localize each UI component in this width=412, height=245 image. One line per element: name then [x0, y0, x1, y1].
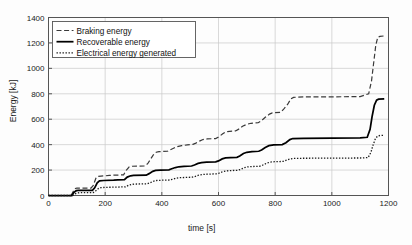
y-tick-label: 1200: [27, 39, 45, 48]
y-tick-label: 200: [31, 166, 45, 175]
x-axis-label: time [s]: [188, 223, 215, 233]
chart-figure: 0200400600800100012000200400600800100012…: [0, 0, 412, 245]
legend-label-3: Electrical energy generated: [77, 49, 177, 58]
y-tick-label: 400: [31, 141, 45, 150]
x-tick-label: 200: [98, 199, 112, 208]
y-tick-label: 600: [31, 115, 45, 124]
x-tick-label: 1000: [323, 199, 341, 208]
x-tick-label: 400: [155, 199, 169, 208]
x-tick-label: 1200: [380, 199, 398, 208]
legend-label-2: Recoverable energy: [77, 38, 151, 47]
legend-label-1: Braking energy: [77, 27, 133, 36]
y-tick-label: 0: [40, 192, 45, 201]
x-tick-label: 600: [212, 199, 226, 208]
series-line-1: [49, 36, 385, 196]
y-tick-label: 800: [31, 90, 45, 99]
y-tick-label: 1400: [27, 14, 45, 23]
chart-legend: Braking energyRecoverable energyElectric…: [53, 22, 196, 58]
y-tick-label: 1000: [27, 64, 45, 73]
y-axis-label: Energy [kJ]: [8, 71, 18, 131]
data-series: [49, 36, 385, 196]
x-tick-label: 800: [268, 199, 282, 208]
chart-svg: 0200400600800100012000200400600800100012…: [0, 0, 412, 245]
x-tick-label: 0: [46, 199, 51, 208]
series-line-2: [49, 99, 385, 196]
